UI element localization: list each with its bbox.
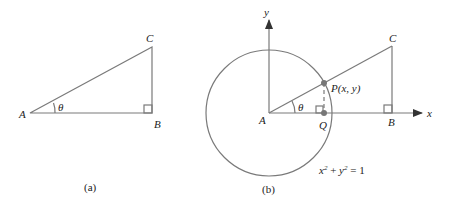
circle-equation: x2 + y2 = 1 — [318, 164, 365, 176]
label-a: A — [18, 108, 26, 120]
diagram-canvas: A B C θ (a) A B C θ P(x, y) Q x y x2 + y… — [0, 0, 452, 205]
label-b: B — [154, 118, 161, 130]
point-p — [321, 80, 327, 86]
caption-a: (a) — [84, 181, 97, 194]
label-c-b: C — [389, 32, 397, 44]
hypotenuse-ac — [269, 46, 392, 113]
angle-arc-b — [292, 101, 295, 113]
label-b-b: B — [388, 116, 395, 128]
figure-b: A B C θ P(x, y) Q x y x2 + y2 = 1 (b) — [206, 6, 432, 196]
figure-a: A B C θ (a) — [18, 32, 161, 194]
point-q — [321, 110, 327, 116]
label-c: C — [146, 32, 154, 44]
label-a-b: A — [258, 114, 266, 126]
label-q: Q — [319, 119, 327, 131]
label-p: P(x, y) — [330, 82, 361, 95]
triangle-abc — [30, 47, 152, 113]
label-theta: θ — [58, 101, 64, 113]
label-y-axis: y — [263, 6, 269, 18]
right-angle-marker-b — [384, 105, 392, 113]
caption-b: (b) — [262, 183, 275, 196]
label-theta-b: θ — [298, 101, 304, 113]
label-x-axis: x — [426, 107, 432, 119]
angle-arc — [54, 103, 56, 113]
right-angle-marker — [144, 105, 152, 113]
